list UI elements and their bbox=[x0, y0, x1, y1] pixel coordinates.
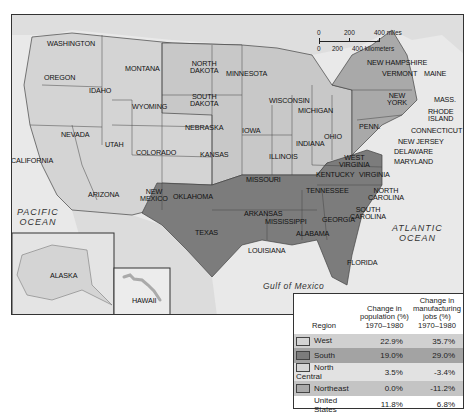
population-change: 11.8% bbox=[358, 396, 411, 414]
label-washington: WASHINGTON bbox=[47, 40, 95, 47]
label-wyoming: WYOMING bbox=[132, 103, 167, 110]
manufacturing-change: 35.7% bbox=[411, 334, 463, 349]
label-maine: MAINE bbox=[424, 70, 446, 77]
label-vermont: VERMONT bbox=[382, 70, 417, 77]
label-minnesota: MINNESOTA bbox=[226, 70, 267, 77]
label-maryland: MARYLAND bbox=[394, 158, 433, 165]
scale-km-400: 400 kilometers bbox=[352, 45, 394, 52]
table-row-north-central: North Central 3.5% -3.4% bbox=[294, 363, 463, 381]
label-california: CALIFORNIA bbox=[11, 157, 53, 164]
header-population: Change in population (%) 1970–1980 bbox=[358, 294, 411, 334]
swatch-north-central bbox=[296, 363, 310, 372]
label-alaska: ALASKA bbox=[50, 272, 77, 279]
manufacturing-change: -3.4% bbox=[411, 363, 463, 381]
label-tennessee: TENNESSEE bbox=[306, 187, 349, 194]
region-name: West bbox=[314, 336, 332, 345]
population-change: 3.5% bbox=[358, 363, 411, 381]
swatch-south bbox=[296, 351, 310, 360]
region-name: Northeast bbox=[314, 384, 349, 393]
table-row-west: West 22.9% 35.7% bbox=[294, 334, 463, 349]
swatch-west bbox=[296, 337, 310, 346]
label-idaho: IDAHO bbox=[89, 87, 111, 94]
label-south-carolina: SOUTH CAROLINA bbox=[350, 206, 386, 221]
scale-miles-400: 400 miles bbox=[374, 29, 402, 36]
label-south-dakota: SOUTH DAKOTA bbox=[190, 93, 218, 108]
label-new-hampshire: NEW HAMPSHIRE bbox=[367, 59, 427, 66]
label-connecticut: CONNECTICUT bbox=[411, 127, 462, 134]
label-virginia: VIRGINIA bbox=[359, 171, 390, 178]
label-new-mexico: NEW MEXICO bbox=[140, 188, 168, 203]
label-louisiana: LOUISIANA bbox=[248, 247, 285, 254]
table-row-northeast: Northeast 0.0% -11.2% bbox=[294, 381, 463, 396]
label-indiana: INDIANA bbox=[296, 140, 324, 147]
swatch-northeast bbox=[296, 384, 310, 393]
label-gulf-of-mexico: Gulf of Mexico bbox=[263, 281, 324, 291]
label-illinois: ILLINOIS bbox=[269, 153, 298, 160]
label-colorado: COLORADO bbox=[136, 149, 176, 156]
region-name: United States bbox=[294, 396, 358, 414]
legend-table-box: Region Change in population (%) 1970–198… bbox=[293, 293, 464, 409]
label-texas: TEXAS bbox=[195, 229, 218, 236]
label-new-jersey: NEW JERSEY bbox=[398, 138, 444, 145]
label-kansas: KANSAS bbox=[200, 151, 229, 158]
us-regions-map: 0 200 400 miles 0 200 400 kilometers PAC… bbox=[11, 14, 464, 315]
label-missouri: MISSOURI bbox=[246, 176, 281, 183]
label-michigan: MICHIGAN bbox=[298, 107, 333, 114]
label-kentucky: KENTUCKY bbox=[316, 171, 354, 178]
label-mississippi: MISSISSIPPI bbox=[265, 218, 307, 225]
label-nebraska: NEBRASKA bbox=[185, 124, 223, 131]
manufacturing-change: -11.2% bbox=[411, 381, 463, 396]
label-west-virginia: WEST VIRGINIA bbox=[339, 154, 370, 169]
label-rhode-island: RHODE ISLAND bbox=[428, 108, 453, 123]
scale-miles-0: 0 bbox=[317, 29, 321, 36]
label-hawaii: HAWAII bbox=[132, 297, 156, 304]
region-name: South bbox=[314, 351, 335, 360]
label-new-york: NEW YORK bbox=[387, 92, 407, 107]
region-change-table: Region Change in population (%) 1970–198… bbox=[294, 294, 463, 414]
label-atlantic-ocean: ATLANTIC OCEAN bbox=[392, 223, 443, 243]
label-florida: FLORIDA bbox=[347, 259, 377, 266]
label-wisconsin: WISCONSIN bbox=[269, 97, 310, 104]
scale-km-200: 200 bbox=[332, 45, 343, 52]
table-row-united-states: United States 11.8% 6.8% bbox=[294, 396, 463, 414]
label-ohio: OHIO bbox=[324, 133, 342, 140]
population-change: 0.0% bbox=[358, 381, 411, 396]
scale-miles-200: 200 bbox=[344, 29, 355, 36]
label-pacific-ocean: PACIFIC OCEAN bbox=[17, 207, 59, 227]
label-alabama: ALABAMA bbox=[296, 230, 329, 237]
label-montana: MONTANA bbox=[125, 65, 160, 72]
label-delaware: DELAWARE bbox=[394, 148, 433, 155]
population-change: 19.0% bbox=[358, 348, 411, 363]
manufacturing-change: 29.0% bbox=[411, 348, 463, 363]
label-oklahoma: OKLAHOMA bbox=[173, 193, 213, 200]
population-change: 22.9% bbox=[358, 334, 411, 349]
label-nevada: NEVADA bbox=[61, 131, 89, 138]
label-arizona: ARIZONA bbox=[88, 191, 119, 198]
label-penn: PENN. bbox=[359, 123, 380, 130]
label-north-dakota: NORTH DAKOTA bbox=[190, 60, 218, 75]
scale-km-0: 0 bbox=[317, 45, 321, 52]
header-manufacturing: Change in manufacturing jobs (%) 1970–19… bbox=[411, 294, 463, 334]
label-mass: MASS. bbox=[434, 96, 456, 103]
label-iowa: IOWA bbox=[242, 127, 261, 134]
label-oregon: OREGON bbox=[44, 74, 75, 81]
label-north-carolina: NORTH CAROLINA bbox=[368, 187, 404, 202]
manufacturing-change: 6.8% bbox=[411, 396, 463, 414]
table-row-south: South 19.0% 29.0% bbox=[294, 348, 463, 363]
label-utah: UTAH bbox=[105, 141, 124, 148]
header-region: Region bbox=[294, 294, 358, 334]
